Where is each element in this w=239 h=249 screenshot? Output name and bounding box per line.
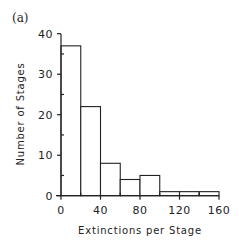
y-axis-title: Number of Stages bbox=[15, 62, 26, 165]
y-tick-label: 10 bbox=[38, 149, 53, 162]
histogram-bar bbox=[61, 46, 81, 196]
x-tick-label: 80 bbox=[133, 204, 148, 217]
y-tick-label: 30 bbox=[38, 68, 53, 81]
histogram-bar bbox=[180, 192, 200, 196]
x-axis-title: Extinctions per Stage bbox=[78, 225, 202, 236]
x-axis-ticks: 04080120160 bbox=[57, 193, 230, 217]
y-tick-label: 20 bbox=[38, 109, 53, 122]
x-tick-label: 160 bbox=[208, 204, 231, 217]
y-axis-ticks: 010203040 bbox=[38, 28, 64, 203]
histogram-bar bbox=[101, 163, 121, 195]
histogram-bars bbox=[61, 46, 219, 196]
panel-label: (a) bbox=[12, 11, 29, 25]
histogram-bar bbox=[160, 192, 180, 196]
x-tick-label: 40 bbox=[93, 204, 108, 217]
y-tick-label: 0 bbox=[46, 190, 54, 203]
histogram-chart: (a) 010203040 04080120160 Extinctions pe… bbox=[0, 0, 239, 249]
histogram-bar bbox=[140, 175, 160, 195]
x-tick-label: 0 bbox=[57, 204, 65, 217]
y-tick-label: 40 bbox=[38, 28, 53, 41]
histogram-bar bbox=[199, 192, 219, 196]
histogram-bar bbox=[81, 107, 101, 196]
x-tick-label: 120 bbox=[168, 204, 191, 217]
histogram-bar bbox=[120, 180, 140, 196]
